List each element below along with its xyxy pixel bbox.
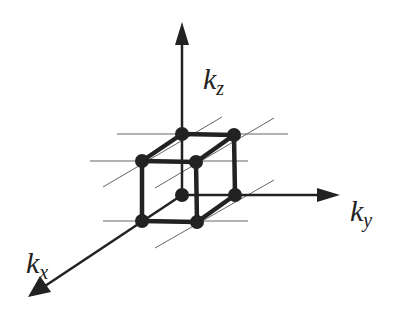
ky-symbol: k (350, 194, 363, 227)
ky-label: ky (350, 196, 372, 230)
kz-symbol: k (203, 62, 216, 95)
lattice-point (175, 127, 189, 141)
arrowhead-right-icon (317, 188, 340, 202)
grid-line-diagonal (155, 118, 274, 188)
arrowhead-up-icon (175, 22, 189, 45)
kx-symbol: k (26, 246, 39, 279)
kx-subscript: x (39, 261, 48, 283)
grid-line-diagonal (155, 180, 274, 248)
lattice-point (175, 188, 189, 202)
ky-subscript: y (363, 209, 372, 231)
kz-subscript: z (216, 77, 224, 99)
grid-line-diagonal (103, 117, 222, 187)
lattice-point (190, 215, 204, 229)
lattice-point (135, 214, 149, 228)
grid-lines (90, 117, 288, 248)
cube-edges (142, 134, 235, 222)
k-space-lattice-diagram (0, 0, 397, 316)
kz-label: kz (203, 64, 224, 98)
ky-axis (182, 188, 340, 202)
lattice-point (189, 155, 203, 169)
lattice-point (227, 128, 241, 142)
kx-label: kx (26, 248, 48, 282)
lattice-point (135, 154, 149, 168)
lattice-point (228, 188, 242, 202)
